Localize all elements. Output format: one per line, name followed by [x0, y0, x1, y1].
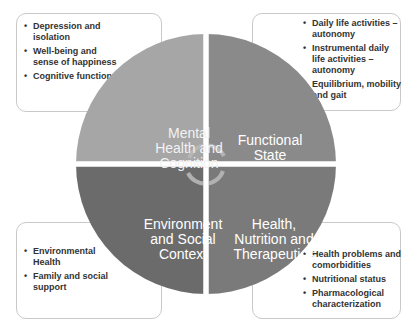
quadrant-label-functional: Functional State: [220, 133, 320, 163]
label-line: and Social: [133, 232, 233, 247]
label-line: Therapeutics: [224, 247, 324, 262]
quadrant-label-environment: Environment and Social Context: [133, 217, 233, 262]
label-line: State: [220, 148, 320, 163]
label-line: Functional: [220, 133, 320, 148]
label-line: Context: [133, 247, 233, 262]
quadrant-label-health: Health, Nutrition and Therapeutics: [224, 217, 324, 262]
label-line: Nutrition and: [224, 232, 324, 247]
label-line: Health,: [224, 217, 324, 232]
label-line: Environment: [133, 217, 233, 232]
assessment-wheel: Mental Health and Cognition Functional S…: [76, 34, 336, 294]
